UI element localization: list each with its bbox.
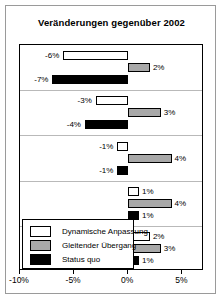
bar-value-label: -3%	[78, 96, 92, 105]
legend-label: Status quo	[62, 254, 100, 265]
bar-value-label: 4%	[175, 199, 187, 208]
bar	[128, 63, 150, 72]
bar	[52, 75, 128, 84]
bar	[85, 120, 128, 129]
bar-value-label: 2%	[153, 63, 165, 72]
bar	[63, 51, 128, 60]
group-separator	[20, 181, 202, 182]
legend-label: Gleitender Übergang	[62, 240, 136, 251]
axis-tick	[181, 270, 182, 274]
bar	[117, 166, 128, 175]
bar-value-label: -4%	[67, 120, 81, 129]
chart-figure: Veränderungen gegenüber 2002 -6%2%-7%-3%…	[0, 0, 223, 300]
bar	[128, 199, 171, 208]
group-separator	[20, 90, 202, 91]
bar-value-label: 3%	[164, 108, 176, 117]
legend-swatch-gray	[30, 240, 51, 251]
bar-value-label: 1%	[142, 256, 154, 265]
group-separator	[20, 135, 202, 136]
bar	[128, 108, 160, 117]
legend-swatch-black	[30, 254, 51, 265]
legend-label: Dynamische Anpassung	[62, 226, 148, 237]
axis-tick-label: -5%	[53, 275, 93, 285]
bar-value-label: 4%	[175, 154, 187, 163]
axis-tick-label: 0%	[107, 275, 147, 285]
bar-value-label: 2%	[153, 232, 165, 241]
bar-value-label: -7%	[34, 75, 48, 84]
bar	[128, 187, 139, 196]
bar-value-label: 1%	[142, 211, 154, 220]
bar-value-label: 1%	[142, 187, 154, 196]
bar-value-label: -1%	[99, 166, 113, 175]
chart-legend: Dynamische AnpassungGleitender ÜbergangS…	[22, 219, 134, 269]
axis-tick	[127, 270, 128, 274]
bar	[128, 154, 171, 163]
bar	[117, 142, 128, 151]
bar-value-label: -6%	[45, 51, 59, 60]
bar	[96, 96, 128, 105]
axis-tick	[19, 270, 20, 274]
bar-value-label: -1%	[99, 142, 113, 151]
axis-tick-label: -10%	[0, 275, 39, 285]
bar-value-label: 3%	[164, 244, 176, 253]
chart-title: Veränderungen gegenüber 2002	[0, 17, 223, 28]
legend-swatch-white	[30, 226, 51, 237]
x-axis	[19, 270, 203, 274]
axis-tick-label: 5%	[161, 275, 201, 285]
axis-tick	[73, 270, 74, 274]
